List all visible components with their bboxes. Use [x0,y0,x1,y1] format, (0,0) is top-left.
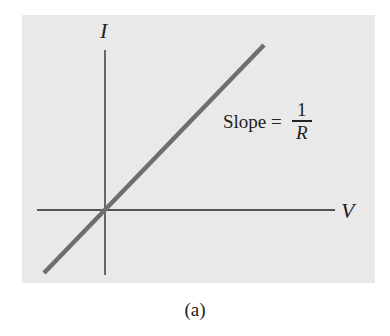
fraction-denominator: R [296,122,308,144]
data-line [44,45,264,273]
figure-caption: (a) [0,299,390,321]
fraction-numerator: 1 [297,100,307,120]
y-axis-label: I [100,18,107,44]
slope-fraction: 1 R [292,100,312,144]
iv-plot [0,0,390,336]
slope-annotation: Slope = 1 R [223,100,312,144]
slope-prefix: Slope = [223,111,282,133]
x-axis-label: V [341,198,354,224]
